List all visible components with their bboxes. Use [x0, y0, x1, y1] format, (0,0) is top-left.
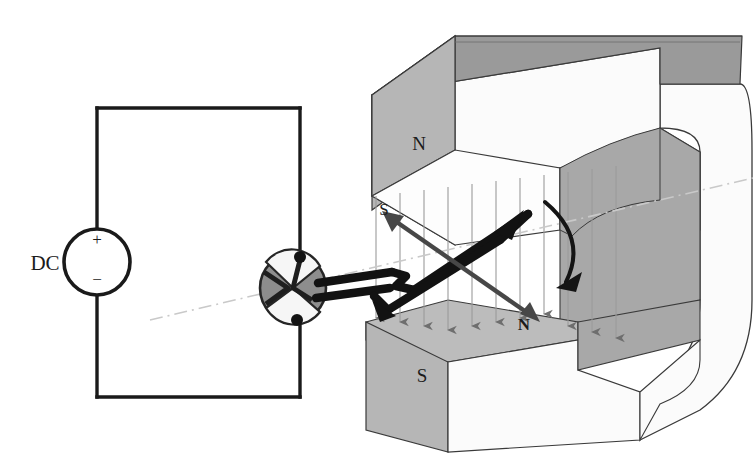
upper-pole-label: N	[412, 133, 426, 154]
figure-canvas: N S DC + −	[0, 0, 753, 462]
coil-lead-kink	[392, 272, 414, 290]
dc-motor-diagram: N S DC + −	[0, 0, 753, 462]
positive-terminal-label: +	[92, 230, 102, 249]
brush-terminal-top	[294, 251, 306, 263]
coil-lead-upper	[318, 272, 392, 283]
dc-source-label: DC	[30, 251, 59, 275]
coil-pole-label-south: S	[379, 200, 388, 219]
lower-pole-label: S	[417, 365, 428, 386]
brush-terminal-bottom	[291, 314, 303, 326]
commutator-assembly	[260, 249, 326, 326]
negative-terminal-label: −	[92, 270, 102, 289]
coil-pole-label-north: N	[518, 315, 531, 334]
